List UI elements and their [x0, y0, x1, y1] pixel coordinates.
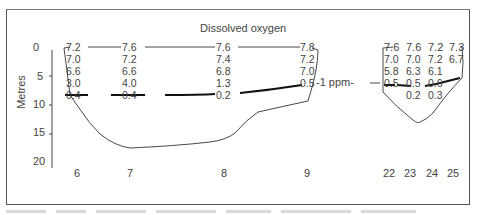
station-7-values: 7.6 7.2 6.6 4.0 0.4 [122, 41, 137, 101]
y-axis: 0 5 10 15 20 Metres [15, 41, 52, 168]
cell: 7.2 [122, 53, 137, 65]
cell: 7.8 [300, 41, 315, 53]
cell: 6.8 [216, 65, 231, 77]
cell: 7.0 [406, 53, 421, 65]
cell: 3.0 [66, 77, 81, 89]
cell: 7.6 [406, 41, 421, 53]
cell: 5.8 [384, 65, 399, 77]
cell: 7.6 [384, 41, 399, 53]
cell: 6.7 [449, 53, 464, 65]
x-axis-labels: 6 7 8 9 22 23 24 25 [74, 167, 459, 179]
lake-section-chart: Dissolved oxygen 0 5 10 15 20 Metres -1 … [0, 0, 477, 215]
cell: 7.0 [66, 53, 81, 65]
station-22-values: 7.6 7.0 5.8 0.5 [384, 41, 399, 89]
station-8-values: 7.6 7.4 6.8 1.3 0.2 [216, 41, 231, 101]
cell: 7.2 [428, 41, 443, 53]
cell: 7.0 [300, 65, 315, 77]
cell: 7.0 [384, 53, 399, 65]
y-tick-20: 20 [33, 155, 45, 167]
cell: 6.3 [406, 65, 421, 77]
chart-title: Dissolved oxygen [200, 22, 286, 34]
cell: 0.4 [66, 89, 81, 101]
station-25-values: 7.3 6.7 [449, 41, 464, 65]
y-tick-5: 5 [37, 70, 43, 82]
cell: 7.4 [216, 53, 231, 65]
cell: 7.3 [449, 41, 464, 53]
cell: 0.5 [406, 77, 421, 89]
cell: 6.6 [122, 65, 137, 77]
cell: 6.1 [428, 65, 443, 77]
station-9-values: 7.8 7.2 7.0 0.5 [300, 41, 315, 89]
cell: 0.5 [384, 77, 399, 89]
cell: 7.2 [300, 53, 315, 65]
cell: 7.2 [66, 41, 81, 53]
x-tick: 22 [383, 167, 395, 179]
station-6-values: 7.2 7.0 6.6 3.0 0.4 [66, 41, 81, 101]
basin-1-bottom [64, 47, 318, 148]
cell: 0.2 [406, 89, 421, 101]
cell: 0.4 [122, 89, 137, 101]
cell: 0.5 [300, 77, 315, 89]
cell: 0.2 [216, 89, 231, 101]
y-tick-15: 15 [33, 126, 45, 138]
cell: 0.3 [428, 89, 443, 101]
cell: 4.0 [122, 77, 137, 89]
station-24-values: 7.2 7.2 6.1 0.6 0.3 [428, 41, 443, 101]
cell: 6.6 [66, 65, 81, 77]
x-tick: 7 [127, 167, 133, 179]
caption-clipped [6, 210, 470, 215]
cell: 7.2 [428, 53, 443, 65]
y-tick-10: 10 [33, 98, 45, 110]
x-tick: 23 [404, 167, 416, 179]
cell: 7.6 [216, 41, 231, 53]
y-axis-label: Metres [15, 75, 27, 109]
x-tick: 24 [426, 167, 438, 179]
station-23-values: 7.6 7.0 6.3 0.5 0.2 [406, 41, 421, 101]
ppm-label: -1 ppm- [316, 76, 354, 88]
x-tick: 6 [74, 167, 80, 179]
cell: 0.6 [428, 77, 443, 89]
y-tick-0: 0 [33, 41, 39, 53]
x-tick: 25 [447, 167, 459, 179]
cell: 1.3 [216, 77, 231, 89]
ppm-isoline-basin-1 [65, 85, 302, 95]
cell: 7.6 [122, 41, 137, 53]
x-tick: 8 [221, 167, 227, 179]
x-tick: 9 [304, 167, 310, 179]
